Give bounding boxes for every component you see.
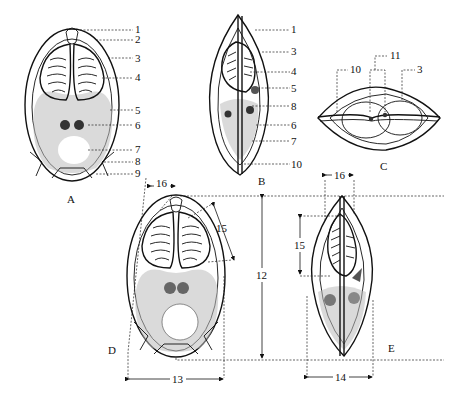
- callout-b-6: 6: [291, 119, 297, 131]
- callout-c-3: 3: [417, 63, 423, 75]
- callout-b-7: 7: [291, 135, 297, 147]
- dimension-d-16: 16: [156, 177, 168, 189]
- panel-b-figure: [210, 15, 269, 175]
- callout-b-1: 1: [291, 23, 297, 35]
- dimension-d-15: 15: [216, 222, 228, 234]
- callout-a-7: 7: [135, 143, 141, 155]
- callout-a-9: 9: [135, 167, 141, 179]
- callout-b-4: 4: [291, 65, 297, 77]
- callout-b-10: 10: [291, 158, 303, 170]
- callout-c-10: 10: [350, 63, 362, 75]
- panel-d-figure: [127, 195, 225, 357]
- callout-a-4: 4: [135, 71, 141, 83]
- dimension-e-16: 16: [334, 169, 346, 181]
- panel-b-letter: B: [258, 175, 265, 187]
- dimension-e-15: 15: [294, 239, 306, 251]
- panel-c-letter: C: [380, 160, 387, 172]
- callout-b-5: 5: [291, 82, 297, 94]
- panel-e-letter: E: [388, 342, 395, 354]
- panel-c-figure: [318, 87, 440, 150]
- callout-b-8: 8: [291, 100, 297, 112]
- callout-c-11: 11: [390, 49, 401, 61]
- callout-a-3: 3: [135, 52, 141, 64]
- dimension-d-12: 12: [256, 269, 267, 281]
- dimension-e-14: 14: [335, 371, 347, 383]
- callout-b-3: 3: [291, 45, 297, 57]
- dimension-d-13: 13: [172, 373, 184, 385]
- callout-a-8: 8: [135, 155, 141, 167]
- callout-a-5: 5: [135, 104, 141, 116]
- panel-e-figure: [312, 196, 373, 356]
- callout-a-2: 2: [135, 33, 141, 45]
- callout-a-6: 6: [135, 119, 141, 131]
- diagram-canvas: 1 2 3 4 5 6 7 8 9 A 1 3 4 5 8 6 7 10 B: [0, 0, 457, 406]
- panel-a-letter: A: [67, 193, 75, 205]
- panel-d-letter: D: [108, 344, 116, 356]
- panel-a-figure: [25, 28, 119, 181]
